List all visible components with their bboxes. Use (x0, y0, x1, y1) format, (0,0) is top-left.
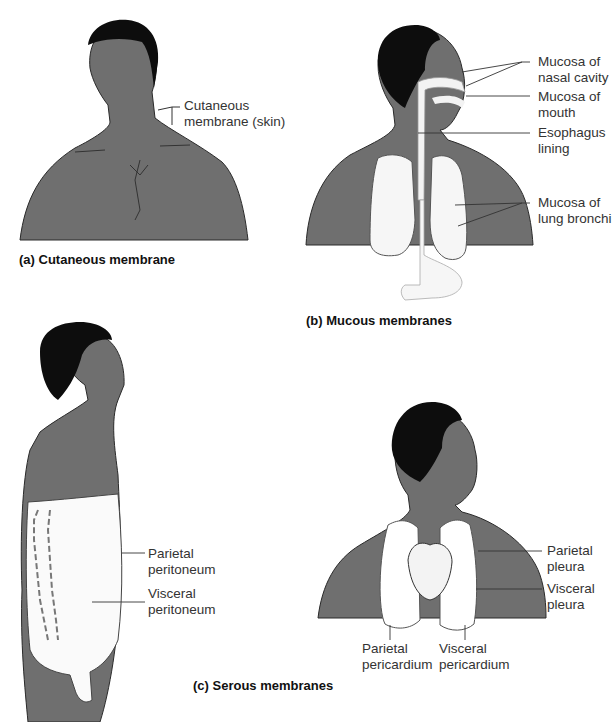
caption-panel-a: (a) Cutaneous membrane (19, 252, 175, 267)
label-parietal-peritoneum: Parietal peritoneum (148, 546, 216, 578)
right-lung-b (430, 156, 467, 260)
left-lung-b (370, 155, 415, 256)
label-line: pleura (547, 597, 595, 613)
label-line: peritoneum (148, 562, 216, 578)
panel-b-figure (306, 25, 533, 300)
panel-c-thorax-figure (318, 402, 546, 640)
label-visceral-pleura: Visceral pleura (547, 581, 595, 613)
label-line: Parietal (547, 543, 593, 559)
label-line: Visceral (439, 641, 510, 657)
label-mucosa-lung-bronchi: Mucosa of lung bronchi (538, 195, 612, 227)
label-parietal-pleura: Parietal pleura (547, 543, 593, 575)
caption-panel-c: (c) Serous membranes (193, 678, 333, 693)
label-line: Mucosa of (538, 89, 600, 105)
label-line: Parietal (148, 546, 216, 562)
label-line: Mucosa of (538, 54, 609, 70)
label-line: membrane (skin) (184, 114, 285, 130)
label-line: Parietal (362, 641, 433, 657)
label-line: Visceral (148, 586, 216, 602)
label-line: mouth (538, 105, 600, 121)
label-line: pericardium (362, 657, 433, 673)
label-line: nasal cavity (538, 70, 609, 86)
label-line: Visceral (547, 581, 595, 597)
label-line: lining (538, 141, 606, 157)
panel-c-side-figure (21, 322, 145, 722)
label-line: peritoneum (148, 602, 216, 618)
torso-a (20, 26, 248, 240)
label-line: Esophagus (538, 125, 606, 141)
diagram-artwork (0, 0, 614, 722)
label-line: Cutaneous (184, 98, 285, 114)
caption-panel-b: (b) Mucous membranes (306, 313, 452, 328)
label-visceral-peritoneum: Visceral peritoneum (148, 586, 216, 618)
label-mucosa-nasal-cavity: Mucosa of nasal cavity (538, 54, 609, 86)
label-visceral-pericardium: Visceral pericardium (439, 641, 510, 673)
label-esophagus-lining: Esophagus lining (538, 125, 606, 157)
label-mucosa-mouth: Mucosa of mouth (538, 89, 600, 121)
label-parietal-pericardium: Parietal pericardium (362, 641, 433, 673)
label-line: pericardium (439, 657, 510, 673)
label-line: Mucosa of (538, 195, 612, 211)
label-line: lung bronchi (538, 211, 612, 227)
label-cutaneous-membrane: Cutaneous membrane (skin) (184, 98, 285, 130)
label-line: pleura (547, 559, 593, 575)
